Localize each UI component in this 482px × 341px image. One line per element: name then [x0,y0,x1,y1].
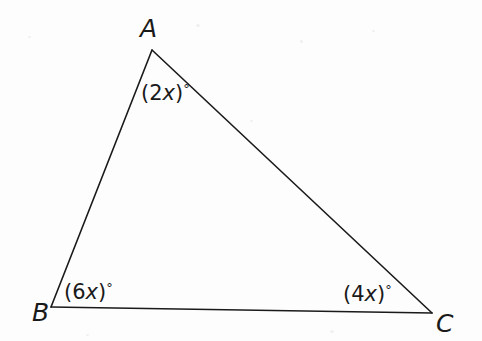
angle-c-variable: x [365,282,377,306]
angle-b-variable: x [86,280,98,304]
triangle-side-ac [152,50,432,313]
angle-a-coefficient: 2 [149,81,162,105]
degree-icon: ° [106,280,113,295]
angle-c-open: ( [343,282,351,306]
angle-a-open: ( [141,81,149,105]
vertex-label-c: C [436,311,454,336]
vertex-label-b: B [32,300,50,325]
angle-b-close: ) [98,280,106,304]
angle-b-coefficient: 6 [72,280,85,304]
triangle-side-bc [51,307,432,313]
angle-label-a: (2x)° [141,82,190,104]
angle-b-open: ( [64,280,72,304]
angle-label-c: (4x)° [343,283,392,305]
angle-label-b: (6x)° [64,281,113,303]
angle-c-coefficient: 4 [351,282,364,306]
degree-icon: ° [183,81,190,96]
angle-a-variable: x [163,81,175,105]
angle-a-close: ) [175,81,183,105]
vertex-label-a: A [140,16,158,41]
angle-c-close: ) [377,282,385,306]
geometry-figure: A B C (2x)° (6x)° (4x)° [0,0,482,341]
triangle-side-ab [51,50,152,307]
degree-icon: ° [385,282,392,297]
